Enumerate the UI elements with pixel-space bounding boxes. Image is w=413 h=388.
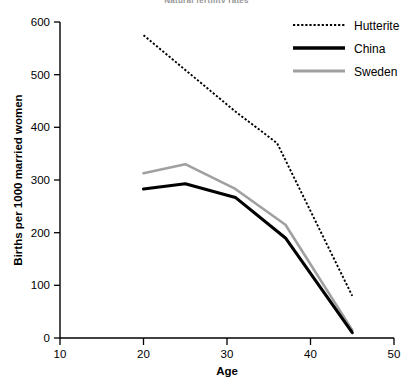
y-tick-label-200: 200 xyxy=(31,227,50,239)
y-tick-label-500: 500 xyxy=(31,69,50,81)
x-tick-label-50: 50 xyxy=(388,348,401,360)
fertility-line-chart: Natural fertility rates 600 500 400 300 … xyxy=(0,0,413,388)
x-axis-title: Age xyxy=(216,365,238,377)
x-tick-label-30: 30 xyxy=(221,348,234,360)
y-tick-label-100: 100 xyxy=(31,279,50,291)
legend-label-china: China xyxy=(354,42,386,56)
legend: Hutterite China Sweden xyxy=(293,19,400,79)
series-line-china xyxy=(144,184,353,333)
chart-canvas: 600 500 400 300 200 100 0 10 20 30 40 50… xyxy=(0,0,413,388)
y-axis xyxy=(54,22,60,338)
y-axis-title: Births per 1000 married women xyxy=(12,94,24,265)
y-tick-label-300: 300 xyxy=(31,174,50,186)
legend-label-hutterite: Hutterite xyxy=(354,19,400,33)
y-tick-label-400: 400 xyxy=(31,121,50,133)
y-tick-label-0: 0 xyxy=(44,332,50,344)
y-tick-label-600: 600 xyxy=(31,16,50,28)
x-axis xyxy=(60,338,394,345)
x-tick-label-20: 20 xyxy=(137,348,150,360)
x-tick-label-40: 40 xyxy=(304,348,317,360)
series-line-sweden xyxy=(144,164,353,330)
legend-label-sweden: Sweden xyxy=(354,65,397,79)
x-tick-label-10: 10 xyxy=(54,348,67,360)
series-lines xyxy=(144,35,353,333)
